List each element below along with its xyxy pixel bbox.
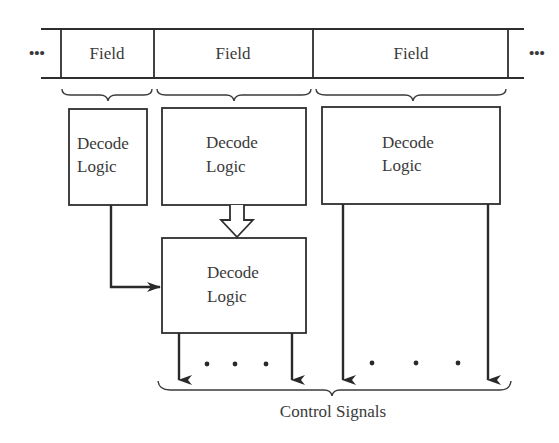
decode-logic-box-2: Decode Logic	[162, 108, 306, 205]
ellipsis-dot	[456, 361, 461, 366]
ellipsis-dot	[233, 362, 238, 367]
decode-logic-box-3: Decode Logic	[322, 107, 500, 204]
brace-field-2	[157, 89, 311, 101]
logic-label: Logic	[77, 157, 117, 176]
brace-field-1	[62, 89, 152, 101]
control-signals-label: Control Signals	[280, 402, 386, 421]
instruction-register: ••• ••• Field Field Field	[29, 29, 545, 78]
ellipsis-dot	[414, 361, 419, 366]
decode-logic-diagram: ••• ••• Field Field Field Decode Logic D…	[0, 0, 559, 443]
field-braces	[62, 89, 506, 101]
logic-label: Logic	[382, 156, 422, 175]
field-label-3: Field	[394, 44, 429, 63]
decode-label: Decode	[382, 133, 434, 152]
connector-arrow	[111, 205, 160, 287]
decode-logic-box-4: Decode Logic	[162, 238, 306, 333]
ellipsis-dot	[264, 362, 269, 367]
ellipsis-dot	[370, 361, 375, 366]
ellipsis-left: •••	[29, 45, 45, 61]
field-label-2: Field	[216, 44, 251, 63]
decode-label: Decode	[207, 263, 259, 282]
ellipsis-right: •••	[529, 45, 545, 61]
field-label-1: Field	[90, 44, 125, 63]
decode-label: Decode	[206, 133, 258, 152]
decode-logic-box-1: Decode Logic	[69, 109, 147, 205]
decode-label: Decode	[77, 134, 129, 153]
brace-field-3	[316, 89, 506, 101]
logic-label: Logic	[206, 157, 246, 176]
logic-label: Logic	[207, 287, 247, 306]
ellipsis-dot	[205, 362, 210, 367]
control-signals-brace	[158, 381, 511, 396]
hollow-down-arrow-icon	[221, 205, 253, 237]
